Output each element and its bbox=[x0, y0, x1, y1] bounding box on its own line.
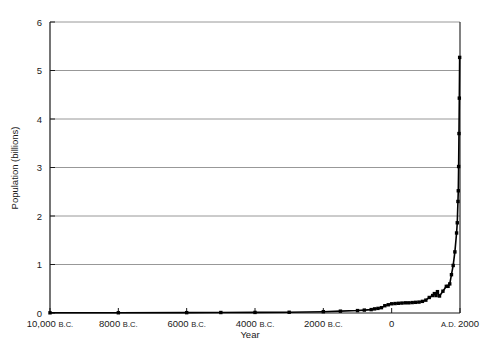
x-tick-label-5: 0 bbox=[389, 318, 394, 329]
data-point-39 bbox=[453, 250, 456, 253]
y-axis-title: Population (billions) bbox=[9, 127, 20, 210]
data-point-9 bbox=[363, 308, 366, 311]
data-point-11 bbox=[373, 307, 376, 310]
y-tick-label-2: 2 bbox=[37, 211, 42, 222]
data-point-13 bbox=[380, 306, 383, 309]
data-point-30 bbox=[434, 294, 437, 297]
data-point-20 bbox=[404, 301, 407, 304]
data-point-1 bbox=[117, 311, 120, 314]
data-point-33 bbox=[441, 289, 444, 292]
data-point-10 bbox=[369, 308, 372, 311]
x-axis-title: Year bbox=[240, 329, 259, 340]
data-point-32 bbox=[438, 294, 441, 297]
x-tick-label-0: 10,000 B.C. bbox=[27, 318, 73, 329]
x-axis-ticks: 10,000 B.C.8000 B.C.6000 B.C.4000 B.C.20… bbox=[27, 308, 479, 329]
y-axis-ticks: 0123456 bbox=[37, 17, 55, 319]
data-point-43 bbox=[457, 189, 460, 192]
data-point-0 bbox=[48, 311, 51, 314]
data-point-14 bbox=[383, 304, 386, 307]
svg-text:A.D. 2000: A.D. 2000 bbox=[441, 318, 479, 329]
data-point-41 bbox=[456, 221, 459, 224]
svg-text:0: 0 bbox=[389, 318, 394, 329]
data-point-5 bbox=[287, 311, 290, 314]
chart-canvas: 10,000 B.C.8000 B.C.6000 B.C.4000 B.C.20… bbox=[0, 0, 492, 356]
x-tick-label-2: 6000 B.C. bbox=[167, 318, 206, 329]
data-point-31 bbox=[436, 290, 439, 293]
data-point-26 bbox=[424, 298, 427, 301]
data-point-27 bbox=[428, 296, 431, 299]
data-point-17 bbox=[393, 302, 396, 305]
y-tick-label-3: 3 bbox=[37, 162, 42, 173]
data-point-15 bbox=[387, 303, 390, 306]
data-point-7 bbox=[339, 309, 342, 312]
y-tick-label-0: 0 bbox=[37, 308, 42, 319]
svg-text:4000 B.C.: 4000 B.C. bbox=[236, 318, 275, 329]
x-tick-label-1: 8000 B.C. bbox=[99, 318, 138, 329]
data-point-8 bbox=[356, 309, 359, 312]
data-point-24 bbox=[417, 300, 420, 303]
x-tick-label-6: A.D. 2000 bbox=[441, 318, 479, 329]
data-point-36 bbox=[448, 282, 451, 285]
data-point-46 bbox=[458, 96, 461, 99]
svg-text:2000 B.C.: 2000 B.C. bbox=[304, 318, 343, 329]
data-point-40 bbox=[455, 231, 458, 234]
y-tick-label-6: 6 bbox=[37, 17, 42, 28]
y-tick-label-4: 4 bbox=[37, 114, 42, 125]
svg-text:8000 B.C.: 8000 B.C. bbox=[99, 318, 138, 329]
data-point-19 bbox=[400, 301, 403, 304]
data-point-22 bbox=[410, 301, 413, 304]
y-tick-label-5: 5 bbox=[37, 65, 42, 76]
data-point-25 bbox=[421, 300, 424, 303]
y-tick-label-1: 1 bbox=[37, 259, 42, 270]
data-point-42 bbox=[456, 200, 459, 203]
svg-text:10,000 B.C.: 10,000 B.C. bbox=[27, 318, 73, 329]
data-point-16 bbox=[390, 302, 393, 305]
grid-lines bbox=[50, 22, 460, 265]
data-point-47 bbox=[458, 56, 461, 59]
svg-text:6000 B.C.: 6000 B.C. bbox=[167, 318, 206, 329]
data-point-37 bbox=[450, 273, 453, 276]
population-markers bbox=[48, 56, 461, 315]
data-point-6 bbox=[322, 310, 325, 313]
data-point-38 bbox=[451, 264, 454, 267]
x-tick-label-3: 4000 B.C. bbox=[236, 318, 275, 329]
data-point-12 bbox=[376, 307, 379, 310]
data-point-18 bbox=[397, 302, 400, 305]
data-point-23 bbox=[414, 301, 417, 304]
population-line bbox=[50, 57, 460, 312]
data-point-4 bbox=[253, 311, 256, 314]
data-point-45 bbox=[457, 132, 460, 135]
population-growth-chart: 10,000 B.C.8000 B.C.6000 B.C.4000 B.C.20… bbox=[0, 0, 492, 356]
data-point-44 bbox=[457, 165, 460, 168]
data-point-21 bbox=[407, 301, 410, 304]
x-tick-label-4: 2000 B.C. bbox=[304, 318, 343, 329]
data-point-2 bbox=[185, 311, 188, 314]
data-point-3 bbox=[219, 311, 222, 314]
